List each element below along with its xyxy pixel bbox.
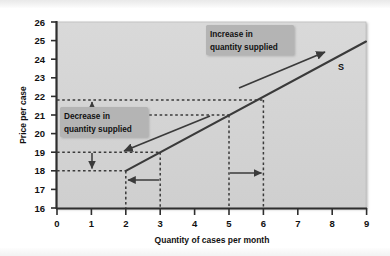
decrease-annotation-line2: quantity supplied xyxy=(64,125,132,134)
y-tick-label-26: 26 xyxy=(34,17,45,28)
y-tick-label-24: 24 xyxy=(34,54,45,65)
x-tick-label-9: 9 xyxy=(364,218,369,229)
x-tick-label-6: 6 xyxy=(261,218,266,229)
x-tick-label-8: 8 xyxy=(330,218,335,229)
y-tick-label-23: 23 xyxy=(34,72,45,83)
x-axis-title: Quantity of cases per month xyxy=(155,235,270,245)
y-axis-title: Price per case xyxy=(18,86,28,144)
increase-annotation-line2: quantity supplied xyxy=(210,43,278,52)
x-tick-label-3: 3 xyxy=(158,218,163,229)
x-tick-label-0: 0 xyxy=(54,218,59,229)
y-tick-label-25: 25 xyxy=(34,35,45,46)
y-tick-label-21: 21 xyxy=(34,110,45,121)
x-tick-label-7: 7 xyxy=(295,218,300,229)
supply-curve-figure: 26 25 24 23 22 21 20 19 18 17 16 0 1 2 3… xyxy=(0,0,390,256)
y-tick-label-22: 22 xyxy=(34,91,45,102)
x-tick-label-1: 1 xyxy=(89,218,95,229)
increase-annotation-line1: Increase in xyxy=(210,30,253,39)
increase-annotation-box: Increase in quantity supplied xyxy=(206,25,294,55)
x-tick-label-2: 2 xyxy=(123,218,128,229)
y-tick-label-17: 17 xyxy=(34,184,45,195)
decrease-annotation-box: Decrease in quantity supplied xyxy=(60,107,148,137)
supply-curve-label: S xyxy=(338,62,344,72)
decrease-annotation-line1: Decrease in xyxy=(64,112,110,121)
y-tick-label-16: 16 xyxy=(34,203,45,214)
y-tick-label-18: 18 xyxy=(34,165,45,176)
chart-canvas: 26 25 24 23 22 21 20 19 18 17 16 0 1 2 3… xyxy=(0,0,390,256)
y-tick-label-20: 20 xyxy=(34,128,45,139)
x-tick-label-5: 5 xyxy=(226,218,232,229)
x-tick-label-4: 4 xyxy=(192,218,198,229)
y-tick-label-19: 19 xyxy=(34,147,45,158)
